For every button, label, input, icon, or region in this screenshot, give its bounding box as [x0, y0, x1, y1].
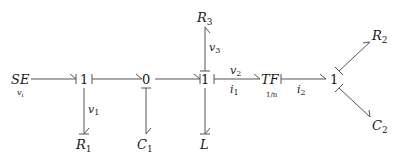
bond-label-i2: i2: [297, 83, 306, 97]
node-l: L: [199, 137, 209, 152]
node-se: SE: [11, 72, 30, 87]
bond-label-i1: i1: [230, 83, 239, 97]
node-c1: C1: [137, 137, 153, 154]
bond-tf-1c: [281, 74, 326, 84]
diagram-svg: SE vi 1 0 1 TF 1/n 1 R1 C1 L R3 R2 C2 v1…: [0, 0, 401, 157]
bond-graph-diagram: SE vi 1 0 1 TF 1/n 1 R1 C1 L R3 R2 C2 v1…: [0, 0, 401, 157]
bond-label-v2: v2: [230, 64, 241, 78]
se-sublabel: vi: [17, 88, 24, 98]
bond-label-v3: v3: [209, 41, 220, 55]
node-junction-0: 0: [142, 72, 150, 87]
node-c2: C2: [372, 118, 388, 135]
node-r1: R1: [75, 137, 92, 154]
node-r2: R2: [371, 28, 388, 45]
tf-ratio: 1/n: [266, 91, 278, 99]
bond-1b-l: [200, 88, 210, 134]
node-junction-1a: 1: [80, 72, 88, 87]
bond-1c-r2: [335, 42, 370, 75]
node-junction-1b: 1: [201, 72, 209, 87]
bond-0-c1: [141, 88, 151, 134]
node-r3: R3: [196, 10, 213, 27]
bond-1a-0: [92, 74, 142, 84]
node-tf: TF: [261, 72, 280, 87]
bond-label-v1: v1: [88, 103, 99, 117]
bond-1c-c2: [335, 84, 370, 117]
bond-0-1b: [155, 74, 200, 84]
node-junction-1c: 1: [330, 72, 338, 87]
bond-se-1a: [31, 74, 76, 84]
